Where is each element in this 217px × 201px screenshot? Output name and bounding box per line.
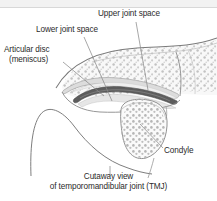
label-upper-joint-space: Upper joint space (98, 9, 160, 19)
label-lower-joint-space: Lower joint space (36, 25, 98, 35)
caption-line-2: of temporomandibular joint (TMJ) (0, 182, 217, 192)
caption-line-1: Cutaway view (0, 172, 217, 182)
label-articular-disc-meniscus: (meniscus) (9, 55, 48, 65)
anatomy-illustration (0, 0, 217, 201)
label-articular-disc: Articular disc (4, 45, 49, 55)
tmj-diagram: Upper joint space Lower joint space Arti… (0, 0, 217, 201)
label-condyle: Condyle (164, 146, 193, 156)
